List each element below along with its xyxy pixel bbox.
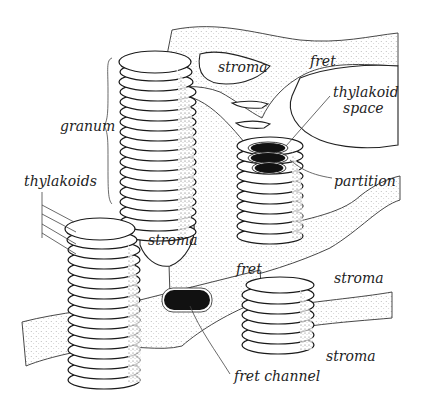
granum-lower-right bbox=[242, 277, 314, 354]
label-fret-top: fret bbox=[309, 53, 336, 69]
fret-slit-2 bbox=[236, 121, 270, 128]
label-stroma-middle: stroma bbox=[148, 232, 198, 248]
fret-lower-band bbox=[22, 270, 262, 366]
granum-upper-left bbox=[119, 51, 196, 241]
fret-channel-cross-section bbox=[162, 288, 212, 312]
granum-lower-left bbox=[65, 218, 141, 389]
label-granum: granum bbox=[60, 118, 115, 134]
fret-slit-1 bbox=[232, 101, 268, 108]
label-thylakoids: thylakoids bbox=[24, 173, 97, 189]
label-stroma-right: stroma bbox=[334, 270, 384, 286]
label-thylakoid-space-2: space bbox=[343, 100, 384, 116]
label-partition: partition bbox=[334, 173, 396, 189]
granum-center-right bbox=[237, 137, 303, 244]
label-stroma-bottom-right: stroma bbox=[326, 348, 376, 364]
thylakoid-granum-diagram: granum thylakoids stroma fret thylakoid … bbox=[0, 0, 421, 409]
label-fret-middle: fret bbox=[235, 261, 262, 277]
label-thylakoid-space-1: thylakoid bbox=[333, 84, 399, 100]
label-fret-channel: fret channel bbox=[233, 368, 320, 384]
thylakoid-lumen-cutaway bbox=[248, 142, 288, 174]
label-stroma-top: stroma bbox=[218, 59, 268, 75]
